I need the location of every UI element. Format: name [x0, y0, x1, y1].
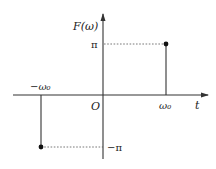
fourier-diagram: F(ω) t O −ω₀ ω₀ π −π	[0, 0, 216, 169]
pi-label: π	[91, 39, 98, 50]
y-axis-label: F(ω)	[72, 20, 98, 33]
neg-omega0-label: −ω₀	[30, 81, 51, 92]
origin-label: O	[91, 100, 100, 113]
neg-pi-label: −π	[107, 142, 122, 153]
positive-impulse-dot	[164, 42, 169, 47]
omega0-label: ω₀	[159, 100, 171, 111]
negative-impulse-dot	[39, 145, 44, 150]
x-axis-label: t	[195, 99, 200, 112]
